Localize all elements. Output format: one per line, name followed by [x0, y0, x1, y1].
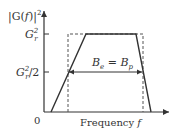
spectrum-diagram: |G(f)|2 G2r G2r/2 Be = Bp 0 Frequency f — [0, 0, 176, 136]
x-axis-label: Frequency f — [80, 117, 143, 128]
y-axis-label: |G(f)|2 — [8, 9, 41, 24]
half-level-label: G2r/2 — [16, 65, 39, 81]
bandwidth-label: Be = Bp — [91, 56, 134, 71]
full-level-label: G2r — [25, 27, 39, 43]
equivalent-rectangle — [68, 34, 143, 112]
spectrum-curve — [51, 34, 151, 112]
origin-label: 0 — [34, 115, 40, 126]
